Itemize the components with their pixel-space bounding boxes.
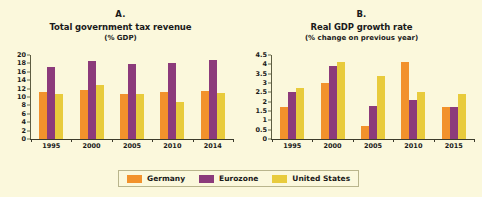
panel-a-ytick-label: 4 (21, 118, 26, 126)
bar-ez (369, 106, 377, 139)
bar-ez (409, 100, 417, 139)
bar-de (361, 126, 369, 139)
xtick-mark (112, 139, 113, 142)
xtick-mark (393, 139, 394, 142)
panel-b-letter: B. (241, 9, 482, 19)
xtick-label: 2010 (154, 142, 190, 156)
bar-de (80, 90, 88, 139)
bar-ez (168, 63, 176, 139)
panel-b-ytick-label: 0.5 (255, 126, 267, 134)
bar-group (80, 55, 104, 139)
panel-a-letter: A. (0, 9, 241, 19)
xtick-mark (193, 139, 194, 142)
xtick-label: 2005 (114, 142, 150, 156)
bar-us (136, 94, 144, 139)
bar-ez (88, 61, 96, 139)
bar-us (296, 88, 304, 139)
xtick-label: 2010 (395, 142, 431, 156)
bar-us (55, 94, 63, 139)
panel-a-ytick-label: 6 (21, 110, 26, 118)
panel-a-ytick-label: 2 (21, 127, 26, 135)
bar-group (361, 55, 385, 139)
xtick-mark (31, 139, 32, 142)
panel-b-ytick-label: 1 (262, 116, 267, 124)
xtick-label: 2000 (315, 142, 351, 156)
xtick-mark (233, 139, 234, 142)
bar-de (39, 92, 47, 139)
panel-a-ytick-label: 12 (17, 85, 26, 93)
panel-b-plot: 4.543.532.521.510.50 1995200020052010201… (241, 47, 482, 165)
panel-a-x-axis-labels: 19952000200520102014 (31, 142, 233, 156)
bar-de (401, 62, 409, 139)
panel-b-ytick-label: 4 (262, 60, 267, 68)
panel-b-bar-groups (272, 55, 474, 139)
xtick-mark (474, 139, 475, 142)
chart-panel-b: B. Real GDP growth rate (% change on pre… (241, 0, 482, 165)
panel-b-x-axis-labels: 19952000200520102015 (272, 142, 474, 156)
panel-b-ytick-label: 3.5 (255, 70, 267, 78)
panel-a-x-axis-line (30, 139, 233, 140)
xtick-label: 2005 (355, 142, 391, 156)
bar-de (160, 92, 168, 139)
panel-a-ytick-label: 10 (17, 93, 26, 101)
panel-a-ytick-label: 18 (17, 59, 26, 67)
legend-swatch-ez (199, 175, 214, 183)
panel-a-ytick-label: 14 (17, 76, 26, 84)
panel-b-ytick-label: 3 (262, 79, 267, 87)
panel-a-subtitle: (% GDP) (0, 34, 241, 42)
panel-a-ytick-label: 20 (17, 51, 26, 59)
xtick-label: 2014 (195, 142, 231, 156)
xtick-mark (71, 139, 72, 142)
bar-group (39, 55, 63, 139)
panel-b-ytick-label: 4.5 (255, 51, 267, 59)
figure-container: A. Total government tax revenue (% GDP) … (0, 0, 482, 197)
legend-item-us: United States (272, 174, 350, 183)
panel-a-ytick-label: 8 (21, 101, 26, 109)
bar-ez (47, 67, 55, 139)
bar-us (458, 94, 466, 139)
xtick-mark (152, 139, 153, 142)
bar-de (442, 107, 450, 139)
panel-a-title: Total government tax revenue (0, 22, 241, 32)
panel-a-bar-groups (31, 55, 233, 139)
bar-us (337, 62, 345, 139)
xtick-label: 1995 (33, 142, 69, 156)
legend-swatch-de (127, 175, 142, 183)
panel-b-ytick-label: 1.5 (255, 107, 267, 115)
bar-group (201, 55, 225, 139)
panel-a-plot: 20181614121086420 19952000200520102014 (0, 47, 241, 165)
panel-b-title: Real GDP growth rate (241, 22, 482, 32)
bar-de (280, 107, 288, 139)
bar-group (280, 55, 304, 139)
xtick-label: 1995 (274, 142, 310, 156)
bar-us (217, 93, 225, 139)
xtick-label: 2015 (436, 142, 472, 156)
bar-us (176, 102, 184, 139)
bar-us (96, 85, 104, 139)
chart-panel-a: A. Total government tax revenue (% GDP) … (0, 0, 241, 165)
bar-ez (450, 107, 458, 139)
panel-b-ytick-label: 2 (262, 98, 267, 106)
bar-ez (209, 60, 217, 139)
legend-item-ez: Eurozone (199, 174, 258, 183)
bar-ez (329, 66, 337, 139)
panel-b-y-axis-ticks: 4.543.532.521.510.50 (241, 55, 271, 139)
xtick-mark (434, 139, 435, 142)
legend-label-de: Germany (147, 174, 185, 183)
panel-a-y-axis-ticks: 20181614121086420 (0, 55, 30, 139)
bar-group (160, 55, 184, 139)
xtick-mark (353, 139, 354, 142)
bar-group (120, 55, 144, 139)
xtick-mark (312, 139, 313, 142)
panel-b-x-axis-line (271, 139, 474, 140)
chart-legend: GermanyEurozoneUnited States (118, 170, 359, 187)
bar-de (321, 83, 329, 139)
xtick-label: 2000 (74, 142, 110, 156)
bar-group (321, 55, 345, 139)
panel-b-ytick-label: 0 (262, 135, 267, 143)
bar-ez (288, 92, 296, 139)
legend-label-us: United States (292, 174, 350, 183)
legend-label-ez: Eurozone (219, 174, 258, 183)
legend-swatch-us (272, 175, 287, 183)
bar-us (377, 76, 385, 139)
